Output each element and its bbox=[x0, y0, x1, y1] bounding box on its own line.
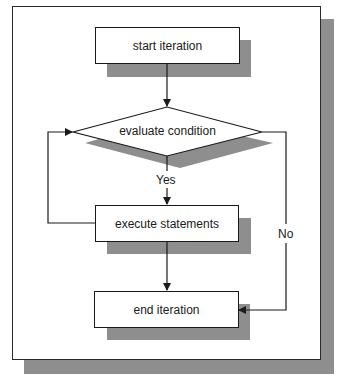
execute-statements-node: execute statements bbox=[95, 205, 239, 242]
start-iteration-label: start iteration bbox=[133, 39, 202, 53]
yes-edge-label: Yes bbox=[156, 173, 176, 187]
end-iteration-label: end iteration bbox=[133, 303, 199, 317]
end-iteration-node: end iteration bbox=[94, 291, 239, 328]
no-edge-label: No bbox=[278, 227, 293, 241]
execute-statements-label: execute statements bbox=[115, 217, 219, 231]
start-iteration-node: start iteration bbox=[95, 27, 240, 64]
evaluate-condition-label: evaluate condition bbox=[73, 124, 262, 138]
